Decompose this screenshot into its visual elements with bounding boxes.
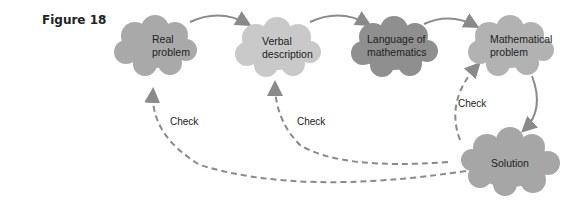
flow-diagram: Real problem Verbal description Language… [0, 0, 581, 200]
check-label-mathematical: Check [458, 98, 487, 109]
node-mathematical-line2: problem [490, 46, 528, 58]
node-language-of-mathematics: Language of mathematics [351, 16, 438, 77]
node-solution-line1: Solution [491, 157, 529, 169]
node-real-problem: Real problem [114, 15, 197, 76]
check-solution-to-real [153, 91, 466, 182]
arrow-verbal-to-language [310, 15, 368, 24]
node-verbal-line2: description [262, 48, 313, 60]
node-language-line1: Language of [367, 33, 425, 45]
arrow-real-to-verbal [190, 15, 248, 24]
node-verbal-description: Verbal description [235, 17, 321, 77]
node-mathematical-problem: Mathematical problem [468, 15, 554, 76]
node-language-line2: mathematics [367, 46, 427, 58]
node-real-line1: Real [152, 33, 174, 45]
node-verbal-line1: Verbal [262, 35, 292, 47]
node-mathematical-line1: Mathematical [490, 33, 552, 45]
node-real-line2: problem [152, 46, 190, 58]
arrow-mathematical-to-solution [524, 76, 537, 130]
node-solution: Solution [461, 127, 560, 196]
check-label-verbal: Check [297, 116, 326, 127]
arrow-language-to-mathematical [424, 18, 476, 26]
check-label-real: Check [170, 116, 199, 127]
